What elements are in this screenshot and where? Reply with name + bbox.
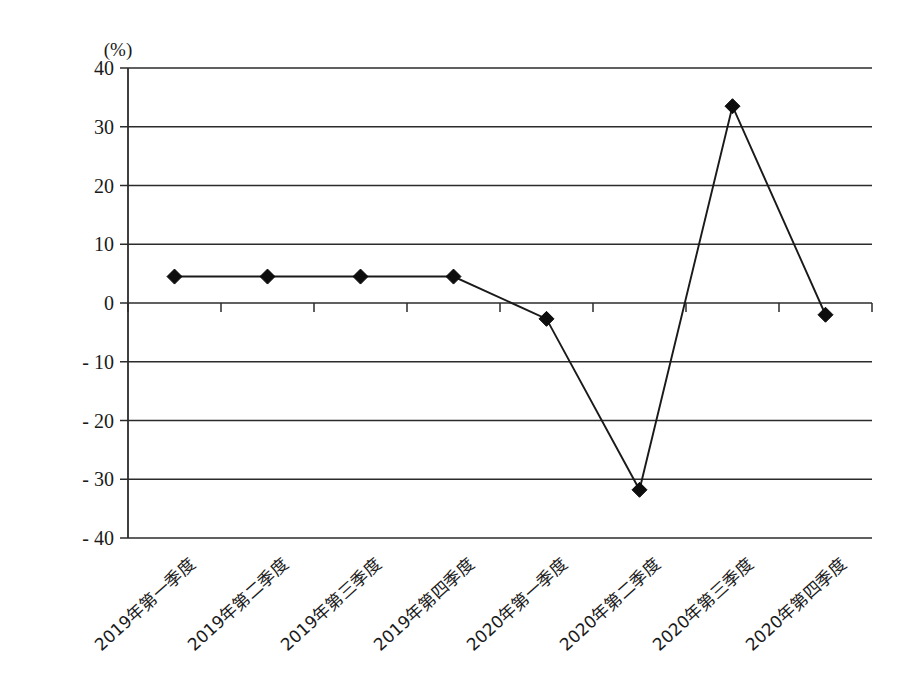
y-axis-tick-label: 0 xyxy=(104,292,114,314)
y-axis-tick-label: - 10 xyxy=(82,351,114,373)
y-axis-tick-label: 30 xyxy=(94,116,114,138)
y-axis-tick-label: 40 xyxy=(94,57,114,79)
chart-background xyxy=(0,0,918,691)
y-axis-tick-label: 20 xyxy=(94,175,114,197)
y-axis-tick-label: - 40 xyxy=(82,527,114,549)
chart-canvas: 403020100- 10- 20- 30- 40 (%) 2019年第一季度2… xyxy=(0,0,918,691)
y-axis-tick-label: 10 xyxy=(94,233,114,255)
y-axis-unit-label: (%) xyxy=(104,39,132,61)
y-axis-tick-label: - 30 xyxy=(82,468,114,490)
y-axis-tick-label: - 20 xyxy=(82,410,114,432)
line-chart: 403020100- 10- 20- 30- 40 (%) 2019年第一季度2… xyxy=(0,0,918,691)
